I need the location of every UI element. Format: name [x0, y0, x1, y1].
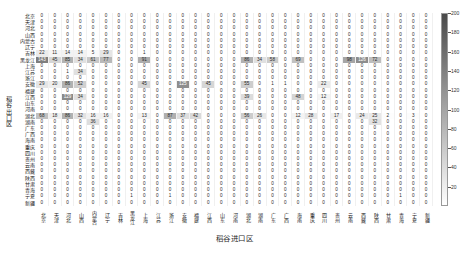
column-label: 辽宁 — [104, 207, 110, 229]
column-label: 北京 — [40, 207, 46, 229]
heatmap-cell: 0 — [343, 200, 356, 206]
column-label: 浙江 — [168, 207, 174, 229]
column-label: 宁夏 — [411, 207, 417, 229]
heatmap-cell: 0 — [305, 200, 318, 206]
heatmap-cell: 0 — [74, 200, 87, 206]
heatmap-cell: 0 — [331, 200, 344, 206]
heatmap-cell: 0 — [49, 200, 62, 206]
column-label: 新疆 — [424, 207, 430, 229]
column-label: 江苏 — [155, 207, 161, 229]
column-label: 广西 — [283, 207, 289, 229]
colorbar-tick-label: 120 — [451, 87, 459, 93]
y-axis-title: 稻谷出口区 — [0, 96, 12, 128]
heatmap-cell: 0 — [241, 200, 254, 206]
colorbar-tick-label: 160 — [451, 49, 459, 55]
colorbar-tick-label: 100 — [451, 107, 459, 113]
heatmap-cell: 0 — [254, 200, 267, 206]
column-label-axis: 北京天津河北山西内蒙古辽宁吉林黑龙江上海江苏浙江安徽福建江西山东河南湖北湖南广东… — [36, 207, 433, 229]
heatmap-cell: 0 — [279, 200, 292, 206]
heatmap-figure: 稻谷出口区 北京天津河北山西内蒙古辽宁吉林黑龙江上海江苏浙江安徽福建江西山东河南… — [0, 0, 470, 256]
colorbar-tick-mark — [448, 71, 451, 72]
heatmap-cell: 0 — [395, 200, 408, 206]
column-label: 广东 — [270, 207, 276, 229]
column-label: 青海 — [398, 207, 404, 229]
heatmap-cell: 0 — [267, 200, 280, 206]
heatmap-cell: 0 — [318, 200, 331, 206]
row-label: 新疆 — [12, 200, 36, 206]
column-label: 内蒙古 — [91, 207, 97, 229]
column-label: 天津 — [52, 207, 58, 229]
column-label: 河北 — [65, 207, 71, 229]
column-label: 上海 — [142, 207, 148, 229]
column-label: 陕西 — [373, 207, 379, 229]
row-label-axis: 北京天津河北山西内蒙古辽宁吉林黑龙江上海江苏浙江安徽福建江西山东河南湖北湖南广东… — [12, 13, 36, 206]
heatmap-cell: 0 — [62, 200, 75, 206]
colorbar-tick-mark — [448, 129, 451, 130]
column-label: 福建 — [193, 207, 199, 229]
column-label: 贵州 — [334, 207, 340, 229]
heatmap-cell: 0 — [126, 200, 139, 206]
heatmap-cell: 0 — [215, 200, 228, 206]
colorbar-gradient — [441, 13, 448, 206]
heatmap-cell: 0 — [177, 200, 190, 206]
colorbar-tick-label: 140 — [451, 68, 459, 74]
heatmap-cell: 0 — [87, 200, 100, 206]
colorbar-tick-mark — [448, 187, 451, 188]
colorbar-tick-mark — [448, 52, 451, 53]
colorbar-tick-label: 40 — [451, 164, 457, 170]
heatmap-cell: 0 — [369, 200, 382, 206]
colorbar-tick-mark — [448, 148, 451, 149]
colorbar-tick-label: 80 — [451, 126, 457, 132]
heatmap-cell: 0 — [151, 200, 164, 206]
heatmap-cell: 0 — [228, 200, 241, 206]
column-label: 甘肃 — [385, 207, 391, 229]
column-label: 河南 — [232, 207, 238, 229]
heatmap-cell: 0 — [292, 200, 305, 206]
column-label: 重庆 — [309, 207, 315, 229]
colorbar-tick-mark — [448, 110, 451, 111]
column-label: 湖北 — [245, 207, 251, 229]
heatmap-cell: 0 — [113, 200, 126, 206]
column-label: 黑龙江 — [129, 207, 135, 229]
heatmap-cell: 0 — [164, 200, 177, 206]
colorbar-tick-label: 200 — [451, 10, 459, 16]
heatmap-cell: 0 — [420, 200, 433, 206]
column-label: 四川 — [321, 207, 327, 229]
heatmap-grid: 0000000000000000000000000000000000000000… — [36, 13, 433, 206]
heatmap-cell: 0 — [36, 200, 49, 206]
column-label: 安徽 — [180, 207, 186, 229]
x-axis-title: 稻谷进口区 — [36, 232, 433, 243]
heatmap-cell: 0 — [382, 200, 395, 206]
column-label: 湖南 — [257, 207, 263, 229]
colorbar-tick-label: 60 — [451, 145, 457, 151]
column-label: 山西 — [78, 207, 84, 229]
colorbar-tick-mark — [448, 32, 451, 33]
column-label: 海南 — [296, 207, 302, 229]
heatmap-cell: 0 — [356, 200, 369, 206]
column-label: 吉林 — [116, 207, 122, 229]
heatmap-cell: 0 — [138, 200, 151, 206]
heatmap-cell: 0 — [190, 200, 203, 206]
colorbar-tick-label: 180 — [451, 29, 459, 35]
colorbar-tick-mark — [448, 13, 451, 14]
colorbar-tick-mark — [448, 90, 451, 91]
heatmap-cell: 0 — [100, 200, 113, 206]
heatmap-cell: 0 — [202, 200, 215, 206]
colorbar-ticks: 20018016014012010080604020 — [449, 13, 469, 206]
heatmap-cell: 0 — [407, 200, 420, 206]
column-label: 江西 — [206, 207, 212, 229]
column-label: 云南 — [347, 207, 353, 229]
colorbar-tick-mark — [448, 167, 451, 168]
column-label: 西藏 — [360, 207, 366, 229]
colorbar-tick-label: 20 — [451, 184, 457, 190]
column-label: 山东 — [219, 207, 225, 229]
